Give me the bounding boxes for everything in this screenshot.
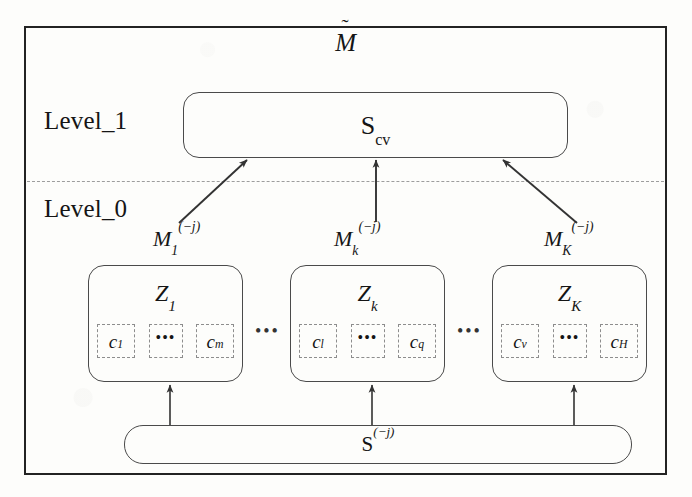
page-title: ˜M — [0, 30, 692, 55]
model-label-K: MK(−j) — [544, 228, 593, 250]
m1-base: M — [153, 226, 171, 251]
level-1-label: Level_1 — [44, 108, 127, 133]
mK-base: M — [544, 226, 562, 251]
cell-c1[interactable]: c1 — [97, 324, 135, 358]
scv-subscript: cv — [375, 131, 390, 148]
sj-base: S — [362, 432, 374, 456]
zk-base: Z — [358, 280, 371, 306]
cq-base: c — [410, 332, 418, 351]
cell-cl[interactable]: cl — [299, 324, 337, 358]
cell-cv[interactable]: cv — [501, 324, 539, 358]
group-separator-2: ••• — [457, 322, 482, 340]
diagram-canvas: ˜M Level_1 Level_0 Scv M1(−j) Mk(−j) MK(… — [0, 0, 692, 497]
scv-base: S — [361, 111, 375, 140]
zbox-K[interactable]: ZK cv ••• cH — [492, 265, 647, 382]
c1-base: c — [109, 332, 117, 351]
model-label-k: Mk(−j) — [334, 228, 380, 250]
cell-ellipsis-1: ••• — [149, 324, 183, 358]
cell-ellipsis-2: ••• — [351, 324, 385, 358]
zbox-K-cells: cv ••• cH — [501, 324, 638, 358]
z1-subscript: 1 — [168, 298, 175, 314]
zK-subscript: K — [571, 298, 581, 314]
scv-box[interactable]: Scv — [183, 92, 568, 158]
zbox-k[interactable]: Zk cl ••• cq — [290, 265, 445, 382]
cell-ellipsis-1-glyph: ••• — [156, 330, 176, 346]
zbox-1-label: Z1 — [89, 281, 242, 305]
cell-cm[interactable]: cm — [196, 324, 234, 358]
model-label-1: M1(−j) — [153, 228, 200, 250]
level-divider — [27, 181, 664, 182]
cell-ellipsis-2-glyph: ••• — [358, 330, 378, 346]
cH-base: c — [611, 332, 619, 351]
tilde-accent: ˜ — [342, 17, 350, 38]
cell-cq[interactable]: cq — [398, 324, 436, 358]
mk-superscript: (−j) — [358, 219, 380, 234]
mk-base: M — [334, 226, 352, 251]
zK-base: Z — [558, 280, 571, 306]
group-separator-1: ••• — [255, 322, 280, 340]
zbox-k-cells: cl ••• cq — [299, 324, 436, 358]
sj-superscript: (−j) — [373, 424, 394, 439]
m1-superscript: (−j) — [178, 219, 200, 234]
title-math: ˜M — [335, 30, 356, 55]
cell-ellipsis-3-glyph: ••• — [560, 330, 580, 346]
m1-subscript: 1 — [171, 243, 178, 258]
mK-subscript: K — [562, 243, 571, 258]
mk-subscript: k — [352, 243, 358, 258]
zbox-1[interactable]: Z1 c1 ••• cm — [88, 265, 243, 382]
scv-box-label: Scv — [184, 113, 567, 139]
mK-superscript: (−j) — [571, 219, 593, 234]
cm-base: c — [207, 332, 215, 351]
cell-cH[interactable]: cH — [600, 324, 638, 358]
sj-box[interactable]: S(−j) — [124, 425, 632, 464]
z1-base: Z — [155, 280, 168, 306]
sj-box-label: S(−j) — [125, 434, 631, 455]
zbox-k-label: Zk — [291, 281, 444, 305]
cell-ellipsis-3: ••• — [553, 324, 587, 358]
zbox-K-label: ZK — [493, 281, 646, 305]
cl-base: c — [312, 332, 320, 351]
zbox-1-cells: c1 ••• cm — [97, 324, 234, 358]
level-0-label: Level_0 — [44, 196, 127, 221]
zk-subscript: k — [371, 298, 378, 314]
cv-base: c — [513, 332, 521, 351]
